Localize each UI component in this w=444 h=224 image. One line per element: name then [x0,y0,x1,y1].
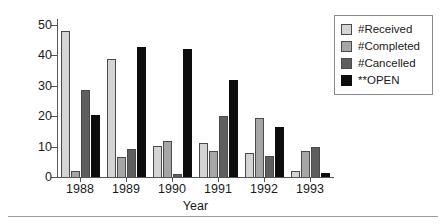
bar-1989-received[interactable] [107,59,116,178]
bar-group-1992: 1992 [241,19,287,177]
bar-1988-completed[interactable] [71,171,80,177]
bar-1990-cancelled[interactable] [173,174,182,177]
bar-1990-received[interactable] [153,146,162,177]
bar-group-1988: 1988 [57,19,103,177]
legend-label-received: #Received [358,24,412,36]
bar-chart-figure: 01020304050 198819891990199119921993 Yea… [0,0,444,224]
y-axis-tick-label: 20 [38,110,52,123]
footer-divider [8,216,438,217]
bar-1993-cancelled[interactable] [311,147,320,177]
x-axis-tick-label: 1993 [296,183,324,196]
bar-1993-received[interactable] [291,171,300,177]
x-axis-tick-label: 1991 [204,183,232,196]
legend-label-open: **OPEN [358,75,400,87]
y-axis-tick-label: 10 [38,140,52,153]
x-axis-line [57,177,334,178]
legend-swatch-completed-icon [341,41,352,52]
y-axis-tick-label: 50 [38,19,52,32]
bar-1989-completed[interactable] [117,157,126,177]
bar-group-1989: 1989 [103,19,149,177]
bar-1990-completed[interactable] [163,141,172,177]
plot-area: 01020304050 198819891990199119921993 [57,19,333,177]
bar-group-1991: 1991 [195,19,241,177]
x-axis-tick-label: 1988 [66,183,94,196]
bar-1991-open[interactable] [229,80,238,177]
bar-1992-open[interactable] [275,127,284,177]
bar-1991-received[interactable] [199,143,208,177]
bar-1988-open[interactable] [91,115,100,177]
bar-1988-received[interactable] [61,31,70,177]
x-axis-title: Year [57,200,334,213]
bar-1992-completed[interactable] [255,118,264,177]
bar-1993-open[interactable] [321,173,330,177]
legend-label-completed: #Completed [358,41,420,53]
y-axis-tick-label: 30 [38,80,52,93]
bar-1991-cancelled[interactable] [219,116,228,177]
legend-item-open[interactable]: **OPEN [341,72,428,89]
bar-groups: 198819891990199119921993 [57,19,333,177]
bar-1992-received[interactable] [245,153,254,177]
legend-swatch-cancelled-icon [341,58,352,69]
legend-item-cancelled[interactable]: #Cancelled [341,55,428,72]
y-axis-tick-label: 0 [45,171,52,184]
legend-item-received[interactable]: #Received [341,21,428,38]
bar-1989-open[interactable] [137,47,146,177]
legend-item-completed[interactable]: #Completed [341,38,428,55]
legend-label-cancelled: #Cancelled [358,58,416,70]
bar-1991-completed[interactable] [209,151,218,177]
legend-swatch-received-icon [341,24,352,35]
x-axis-tick-label: 1990 [158,183,186,196]
y-axis-tick-label: 40 [38,49,52,62]
legend-swatch-open-icon [341,75,352,86]
x-axis-tick-label: 1989 [112,183,140,196]
bar-1992-cancelled[interactable] [265,156,274,177]
x-axis-tick-label: 1992 [250,183,278,196]
bar-1988-cancelled[interactable] [81,90,90,177]
chart-legend: #Received #Completed #Cancelled **OPEN [334,15,433,95]
bar-group-1993: 1993 [287,19,333,177]
bar-1993-completed[interactable] [301,151,310,177]
bar-group-1990: 1990 [149,19,195,177]
bar-1990-open[interactable] [183,49,192,177]
bar-1989-cancelled[interactable] [127,149,136,177]
